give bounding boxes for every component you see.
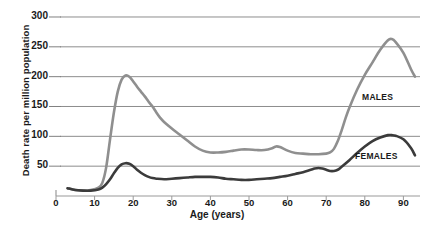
x-tick-label-70: 70 [313, 197, 339, 208]
y-tick-label-300: 300 [8, 10, 48, 21]
x-tick-label-0: 0 [43, 197, 69, 208]
x-axis-title: Age (years) [0, 209, 434, 220]
x-tick-label-20: 20 [120, 197, 146, 208]
x-tick-label-80: 80 [352, 197, 378, 208]
series-label-females: FEMALES [355, 151, 398, 161]
x-tick-label-30: 30 [159, 197, 185, 208]
y-tick-label-200: 200 [8, 70, 48, 81]
x-tick-label-40: 40 [197, 197, 223, 208]
x-tick-label-50: 50 [236, 197, 262, 208]
axis-lines [56, 190, 420, 196]
x-tick-label-90: 90 [390, 197, 416, 208]
y-tick-label-50: 50 [8, 159, 48, 170]
x-tick-label-10: 10 [82, 197, 108, 208]
series-line-males [68, 39, 415, 191]
y-tick-label-250: 250 [8, 40, 48, 51]
series-line-females [68, 135, 415, 191]
y-tick-label-100: 100 [8, 129, 48, 140]
series-label-males: MALES [362, 92, 393, 102]
chart-plot-area [0, 0, 434, 230]
data-series [68, 39, 415, 191]
x-tick-label-60: 60 [275, 197, 301, 208]
chart-container: Death rate per million population Age (y… [0, 0, 434, 230]
y-tick-label-150: 150 [8, 99, 48, 110]
